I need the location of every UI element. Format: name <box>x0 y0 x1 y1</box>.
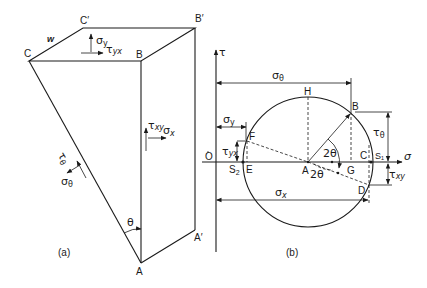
vertex-a-prime-label: A′ <box>194 232 203 243</box>
point-h-label: H <box>304 86 311 97</box>
point-c-label: C <box>360 150 367 161</box>
origin-dot <box>207 151 208 152</box>
point-e-label: E <box>246 164 253 175</box>
sigma-theta-dim-label: σθ <box>272 69 284 83</box>
sigma-x-label: σx <box>163 124 175 138</box>
vertex-c-label: C <box>24 48 31 59</box>
tau-xy-dim-label: τxy <box>389 168 405 181</box>
theta-arc <box>124 229 141 233</box>
center-a-dot <box>307 161 309 163</box>
point-g-label: G <box>347 165 355 176</box>
d-mid-dot <box>337 172 340 175</box>
width-label: w <box>47 34 55 44</box>
figure-a-caption: (a) <box>58 247 70 258</box>
element-figure-a: C C′ B′ B A A′ w σy τyx τxy σx τθ σθ θ (… <box>24 13 204 277</box>
mohr-circle-diagram: C C′ B′ B A A′ w σy τyx τxy σx τθ σθ θ (… <box>0 0 427 288</box>
tau-xy-label: τxy <box>148 119 164 132</box>
theta-label: θ <box>127 216 134 229</box>
tau-theta-arrow <box>77 161 86 178</box>
figure-b-caption: (b) <box>286 247 298 258</box>
lower-2theta-label: 2θ <box>310 168 324 181</box>
vertex-a-label: A <box>136 266 143 277</box>
point-c-dot <box>369 160 372 163</box>
sigma-theta-arrow <box>67 165 80 173</box>
tau-axis-label: τ <box>219 46 226 59</box>
point-e-dot <box>241 160 244 163</box>
tau-theta-label: τθ <box>54 150 72 167</box>
tau-theta-dim-label: τθ <box>373 126 385 140</box>
origin-label: O <box>205 151 213 162</box>
point-d-label: D <box>358 185 365 196</box>
af-dashed <box>247 141 308 162</box>
vertex-b-prime-label: B′ <box>195 13 204 24</box>
sigma-x-dim-label: σx <box>275 186 287 200</box>
point-f-label: F <box>249 131 255 142</box>
vertex-b-label: B <box>136 49 143 60</box>
tau-yx-dim-label: τyx <box>222 145 238 158</box>
upper-2theta-label: 2θ <box>323 147 337 160</box>
point-a-label: A <box>302 165 309 176</box>
vertex-c-prime-label: C′ <box>80 15 89 26</box>
mohr-circle-figure-b: τ σ O σθ H B τθ τxy C S₁ G <box>202 46 412 258</box>
point-b-label: B <box>352 101 359 112</box>
sigma-axis-label: σ <box>404 150 412 163</box>
tau-yx-label: τyx <box>106 43 122 56</box>
point-s1-label: S₁ <box>375 151 384 161</box>
g-dot <box>331 161 333 163</box>
edge-a-aprime <box>141 230 195 263</box>
sigma-theta-label: σθ <box>61 175 73 189</box>
point-s2-label: S2 <box>229 164 240 176</box>
sigma-y-dim-label: σy <box>223 113 235 127</box>
